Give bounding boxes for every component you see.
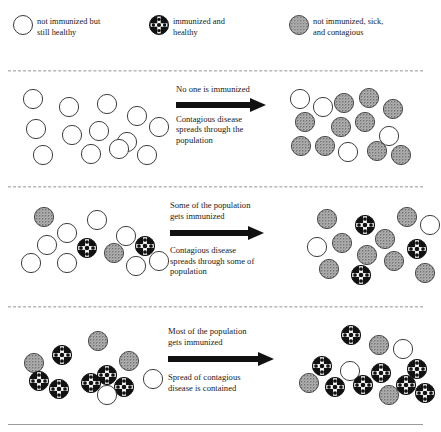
person-token-sick bbox=[390, 144, 412, 170]
person-token-healthy bbox=[96, 93, 118, 119]
person-token-immunized bbox=[354, 214, 376, 240]
caption-bottom-row-2: Contagious disease spreads through some … bbox=[170, 245, 288, 277]
person-token-sick bbox=[316, 208, 338, 234]
caption-bottom-row-3: Spread of contagious disease is containe… bbox=[168, 372, 288, 393]
person-token-healthy bbox=[58, 96, 80, 122]
person-token-sick bbox=[294, 111, 316, 137]
person-token-immunized bbox=[340, 324, 362, 350]
legend-entry-sick: not immunized, sick, and contagious bbox=[288, 14, 383, 40]
person-token-healthy bbox=[108, 138, 130, 164]
cluster-after-row-1 bbox=[288, 80, 428, 172]
person-token-sick bbox=[33, 206, 55, 232]
person-token-sick bbox=[368, 334, 390, 360]
person-token-immunized bbox=[352, 374, 374, 400]
caption-column-row-2: Some of the population gets immunized Co… bbox=[170, 200, 288, 277]
person-token-healthy bbox=[80, 143, 102, 169]
cluster-before-row-1 bbox=[8, 80, 173, 172]
person-token-healthy bbox=[56, 252, 78, 278]
person-token-sick bbox=[103, 242, 125, 268]
row-no-immunization: No one is immunized Contagious disease s… bbox=[0, 80, 431, 180]
person-token-sick bbox=[318, 258, 340, 284]
speckled-circle-icon bbox=[288, 14, 310, 40]
legend-entry-immunized: immunized and healthy bbox=[148, 14, 225, 40]
person-token-sick bbox=[290, 135, 312, 161]
divider-2 bbox=[8, 186, 423, 188]
legend-label-immunized: immunized and healthy bbox=[173, 14, 225, 38]
caption-bottom-row-1: Contagious disease spreads through the p… bbox=[176, 114, 286, 146]
person-token-healthy bbox=[337, 141, 359, 167]
person-token-healthy bbox=[148, 116, 170, 142]
person-token-sick bbox=[383, 250, 405, 276]
arrow-row-3 bbox=[168, 352, 288, 366]
person-token-healthy bbox=[142, 368, 164, 394]
legend-label-healthy: not immunized but still healthy bbox=[37, 14, 100, 38]
cluster-after-row-3 bbox=[282, 322, 428, 418]
person-token-immunized bbox=[76, 237, 98, 263]
legend: not immunized but still healthy immunize… bbox=[0, 10, 431, 58]
caption-top-row-3: Most of the population gets immunized bbox=[168, 326, 288, 347]
person-token-sick bbox=[354, 111, 376, 137]
caption-column-row-1: No one is immunized Contagious disease s… bbox=[176, 84, 286, 145]
person-token-immunized bbox=[51, 344, 73, 370]
cluster-after-row-2 bbox=[288, 200, 428, 292]
open-circle-icon bbox=[12, 14, 34, 40]
person-token-immunized bbox=[324, 376, 346, 402]
person-token-healthy bbox=[25, 118, 47, 144]
person-token-healthy bbox=[56, 222, 78, 248]
person-token-immunized bbox=[48, 378, 70, 404]
person-token-sick bbox=[396, 206, 418, 232]
arrow-row-1 bbox=[176, 98, 286, 112]
caption-top-row-2: Some of the population gets immunized bbox=[170, 200, 288, 221]
person-token-sick bbox=[333, 92, 355, 118]
checkered-circle-icon bbox=[148, 14, 170, 40]
legend-entry-healthy: not immunized but still healthy bbox=[12, 14, 100, 40]
person-token-healthy bbox=[126, 105, 148, 131]
person-token-healthy bbox=[125, 255, 147, 281]
divider-1 bbox=[8, 70, 423, 72]
person-token-sick bbox=[366, 140, 388, 166]
row-most-immunization: Most of the population gets immunized Sp… bbox=[0, 322, 431, 424]
person-token-immunized bbox=[414, 382, 436, 408]
cluster-before-row-3 bbox=[8, 322, 173, 414]
person-token-healthy bbox=[148, 250, 170, 276]
person-token-sick bbox=[298, 372, 320, 398]
person-token-sick bbox=[378, 384, 400, 410]
person-token-sick bbox=[87, 330, 109, 356]
legend-label-sick: not immunized, sick, and contagious bbox=[313, 14, 383, 38]
person-token-healthy bbox=[22, 88, 44, 114]
row-some-immunization: Some of the population gets immunized Co… bbox=[0, 200, 431, 304]
arrow-row-2 bbox=[170, 226, 288, 240]
person-token-healthy bbox=[419, 214, 441, 240]
person-token-sick bbox=[382, 98, 404, 124]
person-token-healthy bbox=[86, 209, 108, 235]
person-token-immunized bbox=[28, 370, 50, 396]
caption-top-row-1: No one is immunized bbox=[176, 84, 286, 95]
caption-column-row-3: Most of the population gets immunized Sp… bbox=[168, 326, 288, 393]
cluster-before-row-2 bbox=[8, 200, 173, 292]
person-token-sick bbox=[314, 135, 336, 161]
person-token-immunized bbox=[350, 264, 372, 290]
person-token-healthy bbox=[136, 144, 158, 170]
divider-bottom bbox=[8, 424, 423, 425]
person-token-sick bbox=[414, 262, 436, 288]
person-token-healthy bbox=[96, 384, 118, 410]
divider-3 bbox=[8, 306, 423, 308]
person-token-sick bbox=[358, 87, 380, 113]
person-token-healthy bbox=[20, 252, 42, 278]
person-token-sick bbox=[331, 232, 353, 258]
person-token-sick bbox=[118, 350, 140, 376]
person-token-healthy bbox=[32, 144, 54, 170]
person-token-immunized bbox=[406, 238, 428, 264]
